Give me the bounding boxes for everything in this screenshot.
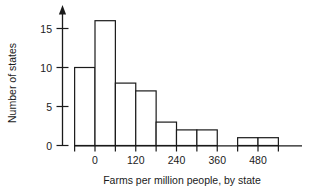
bars-layer xyxy=(75,21,279,146)
y-tick-label-0: 0 xyxy=(46,140,52,152)
y-tick-label-5: 5 xyxy=(46,101,52,113)
histogram-bar xyxy=(197,130,217,146)
x-tick-label: 120 xyxy=(127,154,145,166)
x-tick-label: 360 xyxy=(208,154,226,166)
histogram-bar xyxy=(238,138,258,146)
x-tick-label: 0 xyxy=(92,154,98,166)
x-axis-title: Farms per million people, by state xyxy=(103,174,261,186)
x-tick-label-group: 0120240360480 xyxy=(92,154,267,166)
chart-canvas: Number of states 0 5 10 15 0120240360480… xyxy=(0,0,330,192)
histogram-bar xyxy=(115,83,135,145)
y-tick-label-15: 15 xyxy=(40,23,52,35)
y-axis-title: Number of states xyxy=(6,43,18,123)
histogram-bar xyxy=(136,91,156,146)
x-tick-label: 480 xyxy=(249,154,267,166)
y-tick-group: 0 5 10 15 xyxy=(40,23,68,152)
histogram-bar xyxy=(75,68,95,146)
histogram-chart: Number of states 0 5 10 15 0120240360480… xyxy=(0,0,330,192)
y-axis-arrow-head xyxy=(59,5,66,15)
y-axis xyxy=(59,5,66,146)
x-tick-group xyxy=(75,146,279,152)
histogram-bar xyxy=(258,138,278,146)
x-tick-label: 240 xyxy=(168,154,186,166)
histogram-bar xyxy=(95,21,115,146)
histogram-bar xyxy=(177,130,197,146)
y-tick-label-10: 10 xyxy=(40,62,52,74)
histogram-bar xyxy=(156,122,176,145)
